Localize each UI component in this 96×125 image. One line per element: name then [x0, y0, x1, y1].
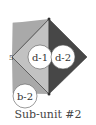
top-vertex [48, 18, 51, 21]
bottom-vertex [48, 93, 51, 96]
label-d2: d-2 [55, 52, 71, 63]
vertex-mark: 5 [9, 54, 13, 62]
caption: Sub-unit #2 [0, 108, 96, 121]
label-b2: b-2 [17, 91, 33, 102]
diagram: 5 d-1 d-2 b-2 [0, 0, 96, 125]
label-d1: d-1 [32, 52, 48, 63]
